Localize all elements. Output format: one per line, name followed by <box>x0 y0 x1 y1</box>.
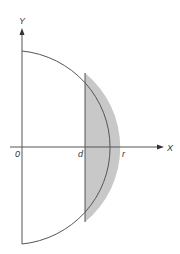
x-axis-arrow-icon <box>157 145 164 150</box>
d-label: d <box>78 149 84 159</box>
x-axis-label: X <box>166 143 174 153</box>
y-axis-label: Y <box>19 16 26 26</box>
r-label: r <box>122 149 126 159</box>
diagram-canvas: Y X 0 d r <box>0 0 180 254</box>
y-axis-arrow-icon <box>20 28 25 35</box>
origin-label: 0 <box>15 149 20 159</box>
